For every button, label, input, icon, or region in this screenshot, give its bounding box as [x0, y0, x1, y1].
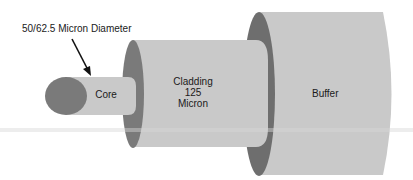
cladding-label: Cladding 125 Micron	[168, 76, 218, 109]
core-front-face	[45, 77, 87, 115]
arrow-head-icon	[83, 66, 91, 76]
cladding-label-line-1: Cladding	[168, 76, 218, 87]
core-diameter-callout-label: 50/62.5 Micron Diameter	[22, 23, 132, 34]
cladding-label-line-2: 125	[168, 87, 218, 98]
core-label: Core	[92, 89, 120, 100]
arrow-line	[72, 39, 88, 70]
artifact-band	[0, 128, 413, 132]
buffer-label: Buffer	[312, 88, 339, 99]
callout-arrow	[72, 39, 91, 76]
cladding-label-line-3: Micron	[168, 98, 218, 109]
core-layer	[45, 77, 136, 115]
